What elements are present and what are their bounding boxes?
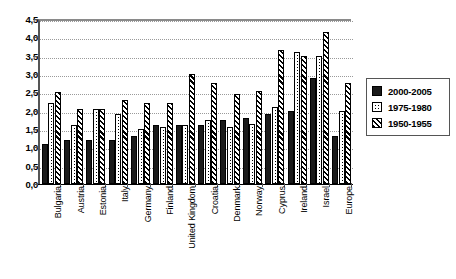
legend-item: 1975-1980 [372,99,445,115]
bar [220,120,226,184]
bar-group [264,21,286,184]
x-axis-tick-label: Norway [254,186,264,216]
bar-group [308,21,330,184]
legend-item-label: 2000-2005 [388,86,432,97]
bar [99,109,105,184]
bar [64,140,70,184]
y-axis: 0,00,51,01,52,02,53,03,54,04,5 [0,19,38,184]
bar-group [129,21,151,184]
bar-group [152,21,174,184]
bar [48,103,54,184]
bar [144,103,150,184]
bar [278,50,284,184]
bar-group [40,21,62,184]
x-axis-tick-label: Finland [165,186,175,215]
bar [249,124,255,185]
x-axis-tick-label: Austria [76,186,86,213]
bar-group [286,21,308,184]
bar [243,118,249,184]
legend-item: 1950-1955 [372,115,445,131]
x-axis-tick-label: United Kingdom [187,186,197,249]
bar-group [331,21,353,184]
solid-black-swatch [372,86,382,96]
bar [310,78,316,184]
bar [316,56,322,184]
bar [227,127,233,184]
bar [86,140,92,184]
bar [77,109,83,184]
bar [167,103,173,184]
bar-chart: 0,00,51,01,52,02,53,03,54,04,5 BulgariaA… [0,0,456,279]
x-axis-tick-label: Bulgaria [53,186,63,218]
x-axis-tick-label: Croatia [210,186,220,214]
bar [42,144,48,184]
bar [122,100,128,184]
bar-group [62,21,84,184]
bar [345,83,351,184]
x-axis-tick-label: Denmark [232,186,242,222]
bar-group [219,21,241,184]
x-axis-tick-label: Estonia [98,186,108,215]
diagonal-hatch-swatch [372,118,382,128]
bar [205,120,211,184]
bar [109,140,115,184]
bar [288,111,294,184]
bar [265,114,271,184]
x-axis-labels: BulgariaAustriaEstoniaItalyGermanyFinlan… [38,186,351,278]
bar [332,136,338,184]
bar [189,74,195,184]
x-axis-tick-label: Ireland [299,186,309,213]
bar [153,125,159,184]
bar [211,83,217,184]
bar [339,111,345,184]
plot-area [38,19,351,184]
bar [71,125,77,184]
x-axis-tick-label: Cyprus [277,186,287,214]
x-axis-tick-label: Italy [120,186,130,202]
bar [176,125,182,184]
bar-group [241,21,263,184]
bar [115,114,121,184]
bar [294,52,300,184]
bar [234,94,240,184]
bar [182,125,188,184]
bar-group [85,21,107,184]
legend-item-label: 1975-1980 [388,102,432,113]
bar-group [107,21,129,184]
bar [93,109,99,184]
bar [301,56,307,184]
bar [131,136,137,184]
bar [272,107,278,184]
legend-item: 2000-2005 [372,83,445,99]
legend-item-label: 1950-1955 [388,118,432,129]
bar [198,125,204,184]
bar [256,91,262,185]
x-axis-tick-label: Germany [143,186,153,222]
bar [55,92,61,184]
x-axis-tick-label: Israel [321,186,331,207]
bar [138,129,144,184]
bar [323,32,329,184]
dotted-white-swatch [372,102,382,112]
bar [160,127,166,184]
chart-legend: 2000-2005 1975-1980 1950-1955 [366,78,450,136]
bar-group [174,21,196,184]
x-axis-tick-label: Europe [344,186,354,214]
bar-group [197,21,219,184]
